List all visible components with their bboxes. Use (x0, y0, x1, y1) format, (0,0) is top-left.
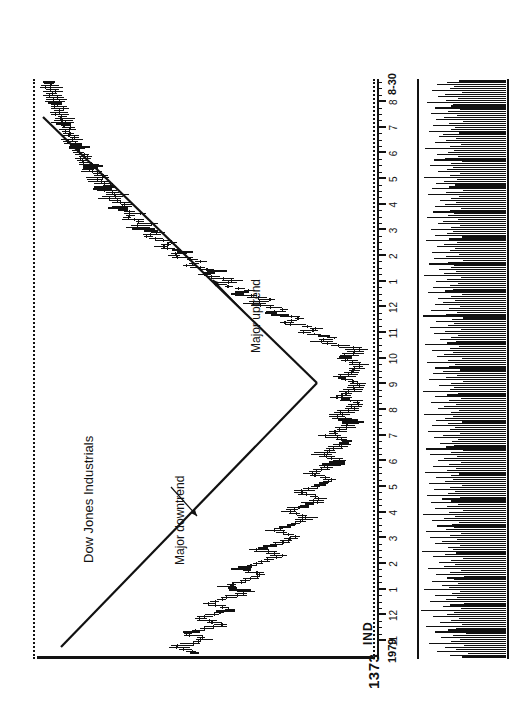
time-axis-minor-tick (377, 505, 382, 506)
time-axis-minor-tick (377, 634, 382, 635)
price-plot (35, 79, 373, 656)
time-axis-tick-label: 11 (388, 328, 399, 338)
time-axis-tick-label: 3 (388, 228, 399, 234)
time-axis-minor-tick (377, 172, 382, 173)
time-axis-tick-label: 9 (388, 382, 399, 388)
time-axis-tick-label: 12 (388, 302, 399, 313)
time-axis-minor-tick (377, 319, 382, 320)
time-axis-minor-tick (377, 608, 382, 609)
time-axis-minor-tick (377, 159, 382, 160)
time-axis-major-tick (377, 228, 386, 230)
time-axis-minor-tick (377, 146, 382, 147)
time-axis-minor-tick (377, 274, 382, 275)
time-axis-minor-tick (377, 371, 382, 372)
time-axis-minor-tick (377, 595, 382, 596)
time-axis-major-tick (377, 588, 386, 590)
time-axis-minor-tick (377, 217, 382, 218)
time-axis-minor-tick (377, 364, 382, 365)
time-axis-minor-tick (377, 88, 382, 89)
time-axis-major-tick (377, 562, 386, 564)
time-axis-tick-label: 3 (388, 536, 399, 542)
time-axis-major-tick (377, 408, 386, 410)
time-axis-minor-tick (377, 242, 382, 243)
time-axis-minor-tick (377, 95, 382, 96)
time-axis-minor-tick (377, 120, 382, 121)
time-axis-tick-label: 12 (388, 610, 399, 621)
time-axis-minor-tick (377, 108, 382, 109)
time-axis-minor-tick (377, 165, 382, 166)
time-axis-major-tick (377, 357, 386, 359)
time-axis-minor-tick (377, 415, 382, 416)
time-axis-tick-label: 6 (388, 151, 399, 157)
price-axis-line (37, 656, 373, 659)
time-axis-major-tick (377, 203, 386, 205)
time-axis-tick-label: 10 (388, 353, 399, 364)
time-axis-minor-tick (377, 602, 382, 603)
volume-series-svg (418, 79, 507, 659)
time-axis-major-tick (377, 151, 386, 153)
time-axis-minor-tick (377, 140, 382, 141)
time-axis-minor-tick (377, 114, 382, 115)
time-axis-tick-label: 8 (388, 407, 399, 413)
time-axis-minor-tick (377, 287, 382, 288)
time-axis-major-tick (377, 613, 386, 615)
rotated-chart-stage: 1373 Dow Jones Industrials Major downtre… (21, 23, 401, 683)
time-axis-minor-tick (377, 422, 382, 423)
time-axis-minor-tick (377, 621, 382, 622)
time-axis-tick-label: 1 (388, 279, 399, 285)
time-axis-minor-tick (377, 480, 382, 481)
time-axis-major-tick (377, 280, 386, 282)
time-axis-tick-label: 7 (388, 125, 399, 131)
time-axis-minor-tick (377, 550, 382, 551)
time-axis-major-tick (377, 126, 386, 128)
time-axis: IND 1979 8-30 11121234567891011121234567… (377, 79, 411, 659)
time-axis-minor-tick (377, 294, 382, 295)
time-axis-minor-tick (377, 441, 382, 442)
time-axis-minor-tick (377, 569, 382, 570)
time-axis-minor-tick (377, 133, 382, 134)
time-axis-minor-tick (377, 236, 382, 237)
time-axis-minor-tick (377, 467, 382, 468)
annotation-major-uptrend: Major uptrend (249, 279, 263, 353)
axis-end-date-label: 8-30 (386, 73, 398, 95)
time-axis-minor-tick (377, 345, 382, 346)
time-axis-minor-tick (377, 448, 382, 449)
time-axis-tick-label: 8 (388, 99, 399, 105)
time-axis-minor-tick (377, 339, 382, 340)
time-axis-minor-tick (377, 403, 382, 404)
time-axis-tick-label: 5 (388, 176, 399, 182)
volume-pane (417, 79, 509, 659)
time-axis-major-tick (377, 331, 386, 333)
dotted-rule-bottom (373, 79, 375, 659)
time-axis-minor-tick (377, 326, 382, 327)
time-axis-tick-label: 4 (388, 510, 399, 516)
time-axis-major-tick (377, 536, 386, 538)
time-axis-tick-label: 7 (388, 433, 399, 439)
time-axis-major-tick (377, 485, 386, 487)
time-axis-minor-tick (377, 582, 382, 583)
time-axis-minor-tick (377, 525, 382, 526)
time-axis-major-tick (377, 434, 386, 436)
time-axis-minor-tick (377, 249, 382, 250)
time-axis-minor-tick (377, 313, 382, 314)
price-series-svg (35, 79, 373, 656)
pane-tag-ind: IND (361, 621, 375, 645)
time-axis-tick-label: 2 (388, 253, 399, 259)
time-axis-minor-tick (377, 627, 382, 628)
time-axis-minor-tick (377, 185, 382, 186)
time-axis-minor-tick (377, 223, 382, 224)
time-axis-minor-tick (377, 268, 382, 269)
time-axis-minor-tick (377, 210, 382, 211)
time-axis-minor-tick (377, 544, 382, 545)
time-axis-minor-tick (377, 390, 382, 391)
time-axis-tick-label: 6 (388, 459, 399, 465)
time-axis-tick-label: 4 (388, 202, 399, 208)
time-axis-major-tick (377, 305, 386, 307)
time-axis-major-tick (377, 100, 386, 102)
chart-canvas: 1373 Dow Jones Industrials Major downtre… (21, 23, 401, 683)
volume-plot (418, 79, 507, 659)
time-axis-minor-tick (377, 377, 382, 378)
time-axis-minor-tick (377, 576, 382, 577)
time-axis-tick-label: 5 (388, 484, 399, 490)
